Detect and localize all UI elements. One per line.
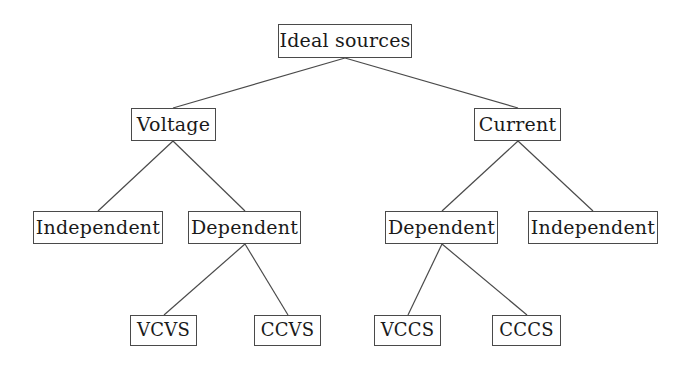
tree-edge-i-dependent-to-cccs <box>442 244 527 315</box>
tree-node-cccs[interactable]: CCCS <box>492 315 561 346</box>
tree-node-label-v-dependent: Dependent <box>191 218 298 238</box>
tree-edge-i-dependent-to-vccs <box>408 244 442 315</box>
tree-edge-root-to-voltage <box>173 58 345 108</box>
tree-node-label-voltage: Voltage <box>137 115 210 135</box>
tree-edge-v-dependent-to-vcvs <box>164 244 245 315</box>
tree-node-label-cccs: CCCS <box>499 321 553 340</box>
tree-node-label-i-independent: Independent <box>531 218 655 238</box>
tree-node-ccvs[interactable]: CCVS <box>254 315 321 346</box>
tree-edge-v-dependent-to-ccvs <box>245 244 288 315</box>
tree-node-label-vccs: VCCS <box>381 321 435 340</box>
tree-node-i-independent[interactable]: Independent <box>528 211 658 244</box>
tree-node-label-ccvs: CCVS <box>261 321 315 340</box>
tree-node-root[interactable]: Ideal sources <box>278 24 412 58</box>
tree-edge-voltage-to-v-independent <box>98 141 173 211</box>
tree-edge-root-to-current <box>345 58 518 108</box>
tree-node-vccs[interactable]: VCCS <box>374 315 441 346</box>
tree-node-i-dependent[interactable]: Dependent <box>385 211 498 244</box>
tree-node-label-i-dependent: Dependent <box>388 218 495 238</box>
tree-node-label-root: Ideal sources <box>279 31 410 51</box>
tree-node-v-dependent[interactable]: Dependent <box>188 211 301 244</box>
tree-node-voltage[interactable]: Voltage <box>131 108 216 141</box>
tree-edge-current-to-i-independent <box>518 141 593 211</box>
tree-node-current[interactable]: Current <box>474 108 561 141</box>
tree-node-label-v-independent: Independent <box>36 218 160 238</box>
tree-node-vcvs[interactable]: VCVS <box>130 315 197 346</box>
tree-node-label-vcvs: VCVS <box>137 321 190 340</box>
tree-edge-voltage-to-v-dependent <box>173 141 245 211</box>
tree-node-v-independent[interactable]: Independent <box>33 211 163 244</box>
diagram-canvas: Ideal sourcesVoltageCurrentIndependentDe… <box>0 0 685 374</box>
tree-edge-current-to-i-dependent <box>442 141 518 211</box>
tree-node-label-current: Current <box>479 115 556 135</box>
